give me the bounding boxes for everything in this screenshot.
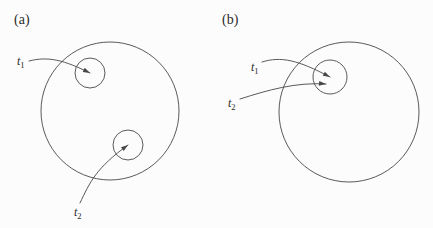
panel-a-leader-line-t2 — [80, 145, 128, 203]
panel-a-label-t1-subscript: 1 — [20, 60, 24, 70]
panel-a-arrow-head-t1 — [83, 68, 91, 75]
panel-b-label-t2-subscript: 2 — [231, 102, 235, 112]
panel-a: (a) t1 t2 — [14, 12, 179, 221]
panel-b-label: (b) — [222, 12, 239, 28]
panel-a-label: (a) — [14, 12, 30, 28]
figure-canvas: (a) t1 t2 (b) t1 — [0, 0, 433, 228]
panel-b-arrow-head-t1 — [323, 72, 331, 79]
panel-b-label-t1-subscript: 1 — [254, 66, 258, 76]
panel-a-label-t1: t1 — [17, 54, 25, 70]
panel-b-arrow-head-t2 — [319, 81, 326, 86]
panel-b: (b) t1 t2 — [222, 12, 419, 182]
panel-b-label-t1: t1 — [251, 60, 259, 76]
panel-b-label-t2: t2 — [228, 96, 236, 112]
panel-a-label-t2-subscript: 2 — [77, 211, 81, 221]
panel-b-leader-line-t1 — [262, 59, 330, 77]
figure-container: (a) t1 t2 (b) t1 — [0, 0, 433, 228]
panel-a-label-t2: t2 — [74, 205, 82, 221]
panel-b-leader-line-t2 — [240, 84, 326, 99]
